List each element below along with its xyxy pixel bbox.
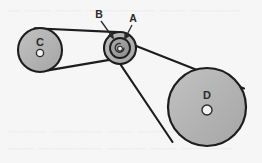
diagram-canvas: — —— —— — ———— —— ———— ——— ———— —— —————… [0, 0, 262, 163]
compound-pulley-ab[interactable] [104, 32, 136, 64]
pulley-b-label: B [95, 8, 103, 20]
pulley-diagram: — —— —— — ———— —— ———— ——— ———— —— —————… [0, 0, 262, 163]
pulley-a-hub-hole [118, 46, 123, 51]
pulley-d-label: D [203, 89, 211, 101]
pulley-d-hub-hole [202, 105, 212, 115]
pulley-c-hub-hole [36, 49, 43, 56]
pulley-d[interactable]: D [168, 68, 246, 146]
pulley-a-label: A [129, 12, 137, 24]
svg-text:— —— —— — ———— —— ————: — —— —— — ———— —— ———— [8, 3, 242, 17]
pulley-c-label: C [36, 36, 44, 48]
pulley-c[interactable]: C [18, 28, 62, 72]
